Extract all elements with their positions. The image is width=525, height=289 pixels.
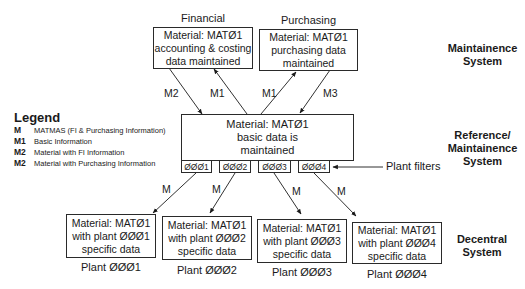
box-line: with plant ØØØ2 (168, 232, 246, 245)
legend-key: M2 (14, 158, 34, 169)
legend-item: M2Material with Purchasing Information (14, 158, 166, 169)
system-label-maintainence: Maintainence System (440, 42, 525, 68)
system-label-line: System (440, 55, 525, 68)
legend-key: M (14, 125, 34, 136)
center-basic-data-box: Material: MATØ1 basic data is maintained (181, 114, 354, 161)
system-label-line: Maintainence (440, 42, 525, 55)
box-line: Material: MATØ1 (263, 222, 342, 235)
box-line: accounting & costing (155, 42, 252, 55)
arrow-label-fin-down: M2 (164, 87, 179, 99)
purchasing-caption: Purchasing (259, 14, 358, 26)
legend-text: Material with FI Information (34, 148, 124, 157)
system-label-line: Decentral (442, 233, 522, 246)
arrow-label-plant3: M (292, 185, 301, 197)
legend-key: M2 (14, 147, 34, 158)
system-label-line: Maintainence (440, 142, 525, 155)
legend-item: MMATMAS (FI & Purchasing Information) (14, 125, 166, 136)
plant-filter-0003: ØØØ3 (258, 160, 291, 173)
box-line: with plant ØØØ1 (72, 230, 150, 243)
legend-key: M1 (14, 136, 34, 147)
plant-filters-label: Plant filters (386, 160, 440, 172)
purchasing-box: Material: MATØ1 purchasing data maintain… (259, 29, 358, 71)
box-line: Material: MATØ1 (358, 224, 437, 237)
plant-filter-0004: ØØØ4 (298, 160, 330, 173)
plant-caption-0002: Plant ØØØ2 (162, 264, 252, 276)
plant-caption-0004: Plant ØØØ4 (352, 268, 442, 280)
arrow-label-fin-up: M1 (210, 87, 225, 99)
arrow-label-plant4: M (337, 185, 346, 197)
box-line: specific data (368, 250, 426, 263)
box-line: specific data (273, 248, 331, 261)
legend-title: Legend (14, 110, 166, 125)
box-line: specific data (178, 245, 236, 258)
box-line: basic data is (237, 131, 298, 144)
box-line: Material: MATØ1 (168, 219, 247, 232)
box-line: data maintained (166, 55, 241, 68)
box-line: with plant ØØØ3 (263, 235, 341, 248)
legend-text: MATMAS (FI & Purchasing Information) (34, 126, 166, 135)
box-line: maintained (283, 57, 334, 70)
plant-caption-0001: Plant ØØØ1 (66, 261, 156, 273)
financial-box: Material: MATØ1 accounting & costing dat… (153, 27, 253, 69)
arrow-label-pur-down: M3 (323, 87, 338, 99)
box-line: Material: MATØ1 (226, 118, 308, 131)
legend-item: M1Basic Information (14, 136, 166, 147)
legend-text: Basic Information (34, 137, 92, 146)
box-line: purchasing data (271, 44, 346, 57)
plant-box-0003: Material: MATØ1 with plant ØØØ3 specific… (257, 219, 347, 263)
legend-item: M2Material with FI Information (14, 147, 166, 158)
box-line: specific data (82, 243, 140, 256)
system-label-line: System (440, 155, 525, 168)
box-line: Material: MATØ1 (164, 29, 243, 42)
arrow-label-pur-up: M1 (262, 87, 277, 99)
legend-text: Material with Purchasing Information (34, 159, 155, 168)
system-label-line: Reference/ (440, 129, 525, 142)
box-line: Material: MATØ1 (269, 31, 348, 44)
system-label-line: System (442, 246, 522, 259)
financial-caption: Financial (153, 12, 253, 24)
plant-box-0004: Material: MATØ1 with plant ØØØ4 specific… (352, 222, 442, 264)
plant-filter-0002: ØØØ2 (219, 160, 251, 173)
plant-box-0001: Material: MATØ1 with plant ØØØ1 specific… (66, 214, 156, 258)
plant-caption-0003: Plant ØØØ3 (257, 266, 347, 278)
legend: Legend MMATMAS (FI & Purchasing Informat… (14, 110, 166, 169)
plant-box-0002: Material: MATØ1 with plant ØØØ2 specific… (162, 216, 252, 260)
system-label-reference: Reference/ Maintainence System (440, 129, 525, 168)
arrow-label-plant1: M (162, 183, 171, 195)
plant-filter-0001: ØØØ1 (181, 160, 212, 173)
system-label-decentral: Decentral System (442, 233, 522, 259)
arrow-label-plant2: M (212, 183, 221, 195)
box-line: Material: MATØ1 (72, 217, 151, 230)
box-line: maintained (241, 144, 295, 157)
box-line: with plant ØØØ4 (358, 237, 436, 250)
